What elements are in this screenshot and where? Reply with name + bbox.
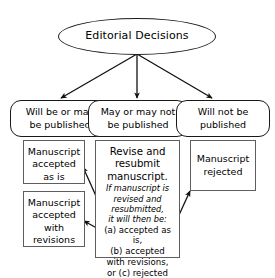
outcome-2-line1: Will not be — [198, 106, 249, 117]
node-revise-and-resubmit-manuscript[interactable]: Revise and resubmit manuscript. If manus… — [95, 140, 180, 258]
outcome-2-line2: published — [200, 119, 246, 130]
editorial-decisions-flowchart: Editorial Decisions Will be or may be pu… — [0, 0, 275, 278]
outcome-1-line1: May or may not — [101, 106, 176, 117]
outcome-1-line2: be published — [107, 119, 168, 130]
node-manuscript-accepted-as-is[interactable]: Manuscript accepted as is — [23, 140, 85, 184]
revise-plain2: (b) accepted — [98, 246, 177, 257]
node-manuscript-accepted-as-is-label: Manuscript accepted as is — [24, 146, 84, 183]
node-manuscript-accepted-with-revisions-label: Manuscript accepted with revisions — [24, 197, 84, 246]
revise-italic2: revised and — [98, 194, 177, 204]
accepted-as-is-line2: accepted — [32, 158, 76, 169]
revise-italic4: it will then be: — [98, 214, 177, 224]
outcome-0-line1: Will be or may — [26, 106, 94, 117]
arrow-root-to-left — [61, 54, 137, 98]
rejected-line1: Manuscript — [197, 153, 250, 164]
accepted-as-is-line1: Manuscript — [28, 146, 81, 157]
node-will-not-be-published[interactable]: Will not be published — [176, 100, 270, 137]
revise-italic3: resubmitted, — [98, 204, 177, 214]
outcome-0-line2: be published — [29, 119, 90, 130]
accepted-with-revisions-line4: revisions — [33, 234, 75, 245]
node-manuscript-rejected[interactable]: Manuscript rejected — [190, 140, 256, 191]
revise-plain1: (a) accepted as is, — [98, 225, 177, 247]
revise-plain4: or (c) rejected — [98, 268, 177, 278]
arrow-root-to-right — [137, 54, 212, 98]
node-will-not-be-published-label: Will not be published — [177, 106, 269, 130]
node-revise-and-resubmit-label: Revise and resubmit manuscript. If manus… — [96, 146, 179, 278]
revise-head3: manuscript. — [98, 171, 177, 183]
node-manuscript-rejected-label: Manuscript rejected — [191, 153, 255, 178]
revise-italic1: If manuscript is — [98, 183, 177, 193]
node-editorial-decisions-label: Editorial Decisions — [85, 30, 188, 43]
revise-head2: resubmit — [98, 158, 177, 170]
node-may-or-may-not-be-published-label: May or may not be published — [89, 106, 187, 130]
accepted-with-revisions-line1: Manuscript — [28, 197, 81, 208]
revise-head1: Revise and — [98, 146, 177, 158]
accepted-as-is-line3: as is — [43, 171, 64, 182]
accepted-with-revisions-line2: accepted — [32, 209, 76, 220]
node-manuscript-accepted-with-revisions[interactable]: Manuscript accepted with revisions — [23, 191, 85, 247]
rejected-line2: rejected — [204, 166, 243, 177]
node-may-or-may-not-be-published[interactable]: May or may not be published — [88, 100, 188, 137]
revise-plain3: with revisions, — [98, 257, 177, 268]
node-editorial-decisions[interactable]: Editorial Decisions — [58, 18, 216, 55]
accepted-with-revisions-line3: with — [44, 222, 64, 233]
